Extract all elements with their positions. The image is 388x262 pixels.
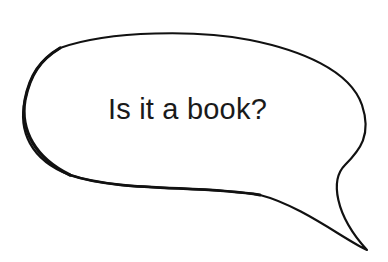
speech-bubble-text: Is it a book? xyxy=(108,93,267,126)
speech-bubble-icon xyxy=(0,0,388,262)
speech-bubble-illustration: Is it a book? xyxy=(0,0,388,262)
